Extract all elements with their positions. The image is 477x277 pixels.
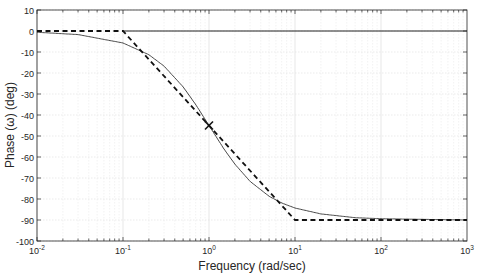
y-tick-label: -20 <box>21 69 34 79</box>
exact-phase-line <box>37 32 467 220</box>
y-tick-label: -10 <box>21 48 34 58</box>
y-tick-label: -40 <box>21 111 34 121</box>
plot-area-frame <box>37 10 467 241</box>
grid-lines <box>37 10 467 241</box>
x-tick-label: 10-1 <box>115 244 131 256</box>
x-tick-labels: 10-210-1100101102103 <box>29 244 474 256</box>
y-tick-labels: 100-10-20-30-40-50-60-70-80-90-100 <box>16 6 34 247</box>
x-tick-label: 101 <box>288 244 302 256</box>
y-tick-label: -80 <box>21 195 34 205</box>
y-tick-label: -60 <box>21 153 34 163</box>
x-tick-label: 102 <box>374 244 388 256</box>
y-tick-label: -30 <box>21 90 34 100</box>
bode-phase-chart: 100-10-20-30-40-50-60-70-80-90-100 10-21… <box>0 0 477 277</box>
x-tick-label: 103 <box>460 244 474 256</box>
y-tick-label: -90 <box>21 216 34 226</box>
x-tick-label: 10-2 <box>29 244 45 256</box>
asymptote-dashed-line <box>37 31 467 220</box>
data-series <box>37 31 467 220</box>
y-tick-label: -100 <box>16 237 34 247</box>
x-tick-label: 100 <box>202 244 216 256</box>
y-axis-label: Phase (ω) (deg) <box>3 82 17 168</box>
y-tick-label: 0 <box>29 27 34 37</box>
y-tick-label: 10 <box>24 6 34 16</box>
x-axis-label: Frequency (rad/sec) <box>198 259 305 273</box>
y-tick-label: -50 <box>21 132 34 142</box>
axis-ticks <box>37 10 467 241</box>
y-tick-label: -70 <box>21 174 34 184</box>
